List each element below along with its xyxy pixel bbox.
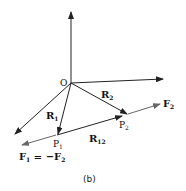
r12-label: R12: [89, 133, 106, 145]
third-axis: [15, 83, 71, 134]
origin-label: O: [60, 78, 67, 88]
force-f2: [128, 104, 160, 114]
r2-label: R2: [101, 89, 114, 101]
r1-label: R1: [46, 110, 59, 122]
vector-r1: [58, 83, 71, 134]
f1-label: F1 = −F2: [19, 151, 65, 163]
figure-caption: (b): [83, 174, 96, 184]
p2-label: P2: [119, 120, 129, 131]
f2-label: F2: [163, 98, 174, 110]
p1-label: P1: [53, 139, 63, 150]
horizontal-axis: [71, 79, 163, 83]
force-f1: [22, 135, 56, 145]
vector-r2: [71, 83, 127, 114]
vector-diagram: O R2 R1 R12 F2 P2 P1 F1 = −F2 (b): [0, 0, 186, 191]
